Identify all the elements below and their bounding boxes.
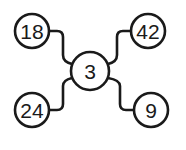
top-left-label: 18 — [20, 20, 43, 43]
connector-bottom-left — [49, 78, 72, 110]
connector-top-right — [108, 31, 131, 64]
connector-top-left — [49, 31, 72, 64]
connector-bottom-right — [108, 78, 134, 110]
number-web-diagram: 3 18 42 24 9 — [0, 0, 186, 150]
center-label: 3 — [84, 60, 96, 83]
top-right-label: 42 — [136, 20, 159, 43]
bottom-left-label: 24 — [20, 99, 44, 122]
bottom-right-label: 9 — [145, 99, 157, 122]
